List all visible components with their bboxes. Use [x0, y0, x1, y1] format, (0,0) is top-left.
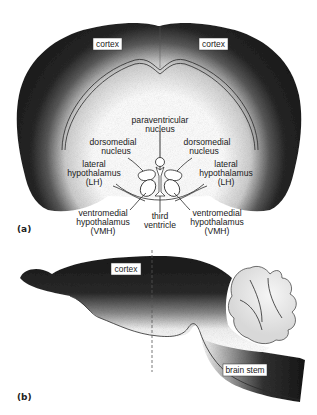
cerebellum-shape [228, 266, 296, 343]
label-ventromedial-left-3: (VMH) [91, 226, 116, 236]
label-ventromedial-right-3: (VMH) [205, 226, 230, 236]
label-brain-stem: brain stem [225, 365, 264, 375]
label-cortex-sagittal: cortex [115, 264, 139, 274]
label-dorsomedial-right-2: nucleus [189, 146, 219, 156]
label-lateral-right-3: (LH) [218, 177, 235, 187]
label-lateral-left-3: (LH) [86, 177, 103, 187]
panel-label-b: (b) [17, 392, 32, 402]
panel-label-a: (a) [17, 224, 31, 234]
paraventricular-nucleus-shape [156, 158, 165, 167]
label-dorsomedial-left-2: nucleus [101, 146, 131, 156]
sagittal-section: cortex brain stem (b) [17, 250, 305, 402]
brain-diagram: cortex cortex paraventricular nucleus do… [0, 0, 317, 415]
label-cortex-left: cortex [96, 39, 120, 49]
coronal-section: cortex cortex paraventricular nucleus do… [17, 23, 302, 236]
label-cortex-right: cortex [202, 39, 226, 49]
label-third-ventricle-2: ventricle [144, 220, 176, 230]
label-paraventricular-2: nucleus [145, 124, 175, 134]
